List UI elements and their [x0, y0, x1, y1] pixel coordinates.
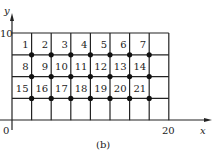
cell-number: 4	[81, 39, 87, 50]
cell-number: 20	[114, 83, 127, 94]
node-dot	[88, 52, 93, 57]
cell-number: 1	[22, 39, 28, 50]
node-dot	[127, 96, 132, 101]
y-axis-arrow-icon	[10, 13, 14, 21]
node-dot	[68, 96, 73, 101]
cell-number: 18	[75, 83, 88, 94]
node-dot	[107, 74, 112, 79]
cell-number: 13	[114, 61, 127, 72]
node-dot	[107, 52, 112, 57]
node-dot	[29, 96, 34, 101]
node-dot	[127, 74, 132, 79]
node-dot	[147, 74, 152, 79]
cell-number: 5	[101, 39, 107, 50]
x-axis-label: x	[200, 125, 206, 136]
cell-number: 7	[140, 39, 146, 50]
cell-number: 3	[61, 39, 67, 50]
cell-number: 10	[55, 61, 68, 72]
cell-number: 9	[42, 61, 48, 72]
cell-number: 17	[55, 83, 68, 94]
node-dot	[68, 52, 73, 57]
node-dot	[127, 52, 132, 57]
cell-number: 6	[120, 39, 126, 50]
node-dot	[107, 96, 112, 101]
node-dot	[49, 74, 54, 79]
node-dot	[68, 74, 73, 79]
node-dot	[29, 74, 34, 79]
cell-number: 16	[35, 83, 48, 94]
cell-number: 2	[42, 39, 48, 50]
cell-number: 8	[22, 61, 28, 72]
node-dot	[49, 52, 54, 57]
cell-number: 12	[94, 61, 107, 72]
node-dot	[29, 52, 34, 57]
y-axis-label: y	[3, 5, 10, 16]
grid-diagram: 123456789101112131415161718192021 y 10 0…	[0, 0, 214, 156]
x-axis-arrow-icon	[204, 118, 212, 122]
y-tick-label: 10	[0, 28, 13, 39]
cell-number: 15	[16, 83, 29, 94]
node-dot	[147, 96, 152, 101]
x-tick-label: 20	[162, 125, 175, 136]
cell-number: 19	[94, 83, 107, 94]
cell-number: 21	[133, 83, 146, 94]
figure-caption: (b)	[96, 139, 110, 150]
cell-labels: 123456789101112131415161718192021	[16, 39, 146, 94]
node-dot	[49, 96, 54, 101]
cell-number: 14	[133, 61, 146, 72]
node-dot	[88, 74, 93, 79]
cell-number: 11	[75, 61, 88, 72]
node-dot	[88, 96, 93, 101]
node-dot	[147, 52, 152, 57]
origin-label: 0	[3, 125, 9, 136]
